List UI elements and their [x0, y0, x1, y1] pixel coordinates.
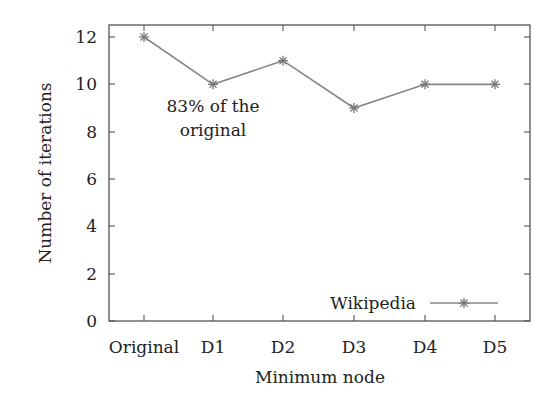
y-axis-ticks: [109, 37, 530, 321]
plot-frame: [109, 25, 530, 321]
annotation-line-2: original: [180, 120, 247, 140]
legend-label: Wikipedia: [330, 293, 416, 313]
x-axis-title: Minimum node: [255, 367, 385, 387]
annotation-line-1: 83% of the: [167, 96, 260, 116]
x-tick-label: D3: [342, 337, 366, 357]
asterisk-marker-icon: [349, 103, 359, 113]
x-tick-label: D4: [413, 337, 437, 357]
x-tick-label: Original: [109, 337, 179, 357]
x-tick-labels: Original D1 D2 D3 D4 D5: [109, 337, 507, 357]
annotation: 83% of the original: [167, 96, 260, 140]
x-tick-label: D5: [483, 337, 507, 357]
asterisk-marker-icon: [459, 298, 469, 308]
asterisk-marker-icon: [139, 32, 149, 42]
x-tick-label: D1: [201, 337, 225, 357]
line-chart: 0 2 4 6 8 10 12 Original D1 D2 D3 D4 D5 …: [0, 0, 560, 409]
y-axis-title: Number of iterations: [35, 82, 55, 263]
y-tick-labels: 0 2 4 6 8 10 12: [75, 27, 97, 331]
asterisk-marker-icon: [208, 79, 218, 89]
y-tick-label: 8: [86, 122, 97, 142]
y-tick-label: 12: [75, 27, 97, 47]
asterisk-marker-icon: [278, 56, 288, 66]
y-tick-label: 4: [86, 216, 97, 236]
asterisk-marker-icon: [490, 79, 500, 89]
y-tick-label: 0: [86, 311, 97, 331]
legend: Wikipedia: [330, 293, 498, 313]
asterisk-marker-icon: [420, 79, 430, 89]
y-tick-label: 2: [86, 264, 97, 284]
y-tick-label: 10: [75, 74, 97, 94]
x-tick-label: D2: [271, 337, 295, 357]
y-tick-label: 6: [86, 169, 97, 189]
x-axis-ticks: [144, 25, 495, 321]
